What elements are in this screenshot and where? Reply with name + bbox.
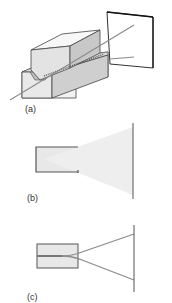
- split-beam-illustration: [0, 205, 172, 303]
- panel-c: (c): [0, 205, 172, 303]
- panel-b: (b): [0, 115, 172, 205]
- panel-label-a: (a): [25, 104, 36, 114]
- panel-label-c: (c): [27, 292, 38, 302]
- panel-a: (a): [0, 0, 172, 115]
- diverging-cone-illustration: [0, 115, 172, 205]
- panel-label-b: (b): [27, 193, 38, 203]
- waveguide-3d-illustration: [0, 0, 172, 115]
